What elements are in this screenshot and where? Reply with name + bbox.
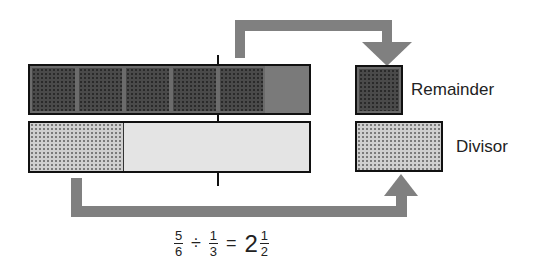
remainder-swatch — [355, 65, 403, 115]
result-fraction: 1 2 — [260, 229, 269, 258]
remainder-label: Remainder — [411, 80, 494, 100]
dividend-fraction: 5 6 — [174, 229, 183, 258]
dividend-cell — [30, 66, 77, 113]
divisor-part — [30, 123, 124, 171]
equation: 5 6 ÷ 1 3 = 2 1 2 — [174, 229, 269, 258]
dividend-cell — [77, 66, 124, 113]
dividend-cell — [218, 66, 265, 113]
divisor-label: Divisor — [456, 137, 508, 157]
arrow-to-remainder-icon — [235, 20, 412, 66]
divisor-fraction: 1 3 — [209, 229, 218, 258]
arrow-to-divisor-icon — [71, 174, 418, 217]
divisor-swatch — [355, 121, 443, 172]
dividend-bar — [28, 64, 311, 115]
result-mixed-number: 2 1 2 — [244, 229, 268, 258]
dividend-cell — [124, 66, 171, 113]
divide-operator: ÷ — [191, 233, 201, 254]
divisor-bar — [28, 121, 311, 173]
equals-sign: = — [226, 233, 237, 254]
divisor-part-empty — [124, 123, 309, 171]
dividend-cell — [171, 66, 218, 113]
dividend-cell-empty — [265, 66, 309, 113]
